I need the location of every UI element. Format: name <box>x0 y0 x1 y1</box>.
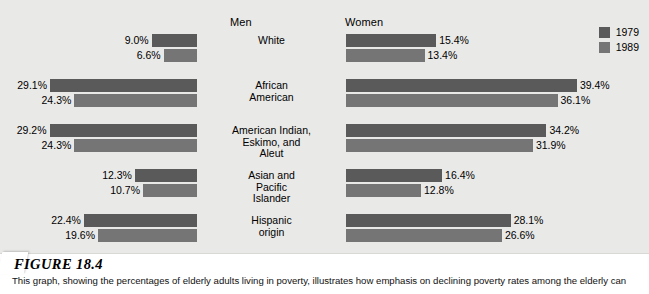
bar-value-label-women-1989: 31.9% <box>536 139 566 152</box>
men-bars-group: 29.2%24.3% <box>0 120 197 165</box>
bar-value-label-men-1979: 29.2% <box>17 124 47 137</box>
bar-value-label-men-1979: 12.3% <box>102 169 132 182</box>
category-label: AfricanAmerican <box>197 75 346 103</box>
bar-women-1989 <box>346 139 533 152</box>
bar-line: 24.3% <box>42 94 197 107</box>
bar-value-label-men-1989: 24.3% <box>42 139 72 152</box>
bar-line: 39.4% <box>346 79 610 92</box>
bar-women-1989 <box>346 184 421 197</box>
category-label-line: origin <box>197 227 346 239</box>
bar-line: 28.1% <box>346 214 543 227</box>
bar-line: 13.4% <box>346 49 457 62</box>
bar-women-1979 <box>346 124 546 137</box>
bar-line: 16.4% <box>346 169 475 182</box>
bar-women-1989 <box>346 94 558 107</box>
bar-line: 22.4% <box>51 214 197 227</box>
chart-row: 12.3%10.7%Asian andPacificIslander16.4%1… <box>0 165 649 210</box>
bar-men-1989 <box>74 94 197 107</box>
figure-caption-block: FIGURE 18.4 This graph, showing the perc… <box>0 253 649 294</box>
bar-value-label-men-1989: 6.6% <box>137 49 161 62</box>
bar-men-1989 <box>74 139 197 152</box>
category-label-line: Aleut <box>197 148 346 160</box>
bar-women-1979 <box>346 34 436 47</box>
category-label-line: African <box>197 80 346 92</box>
women-bars-group: 28.1%26.6% <box>346 210 649 255</box>
bar-women-1979 <box>346 79 577 92</box>
bar-value-label-men-1979: 9.0% <box>125 34 149 47</box>
bar-men-1989 <box>98 229 197 242</box>
category-label-line: American <box>197 92 346 104</box>
bar-men-1979 <box>84 214 197 227</box>
category-label-line: Hispanic <box>197 215 346 227</box>
bar-line: 12.8% <box>346 184 454 197</box>
bar-line: 29.1% <box>17 79 197 92</box>
bar-line: 10.7% <box>110 184 197 197</box>
bar-value-label-women-1989: 36.1% <box>561 94 591 107</box>
category-label: American Indian,Eskimo, andAleut <box>197 120 346 160</box>
chart-rows: 9.0%6.6%White15.4%13.4%29.1%24.3%African… <box>0 30 649 255</box>
bar-men-1989 <box>143 184 197 197</box>
bar-men-1989 <box>164 49 197 62</box>
bar-women-1979 <box>346 214 511 227</box>
chart-row: 29.1%24.3%AfricanAmerican39.4%36.1% <box>0 75 649 120</box>
bar-value-label-men-1979: 29.1% <box>17 79 47 92</box>
chart-row: 22.4%19.6%Hispanicorigin28.1%26.6% <box>0 210 649 255</box>
bar-line: 26.6% <box>346 229 535 242</box>
column-header-women: Women <box>345 16 383 28</box>
bar-line: 9.0% <box>125 34 197 47</box>
bar-men-1979 <box>135 169 197 182</box>
category-label: Hispanicorigin <box>197 210 346 238</box>
bar-line: 31.9% <box>346 139 566 152</box>
bar-value-label-women-1979: 16.4% <box>445 169 475 182</box>
figure-container: Men Women 1979 1989 9.0%6.6%White15.4%13… <box>0 0 649 294</box>
bar-line: 29.2% <box>17 124 197 137</box>
category-label-line: White <box>197 35 346 47</box>
bar-line: 15.4% <box>346 34 469 47</box>
bar-men-1979 <box>50 79 197 92</box>
column-header-men: Men <box>230 16 252 28</box>
bar-line: 36.1% <box>346 94 590 107</box>
bar-value-label-women-1979: 28.1% <box>514 214 544 227</box>
bar-value-label-men-1989: 10.7% <box>110 184 140 197</box>
bar-line: 34.2% <box>346 124 579 137</box>
bar-line: 24.3% <box>42 139 197 152</box>
bar-women-1989 <box>346 229 502 242</box>
bar-value-label-women-1979: 34.2% <box>549 124 579 137</box>
bar-value-label-men-1989: 24.3% <box>42 94 72 107</box>
women-bars-group: 39.4%36.1% <box>346 75 649 120</box>
bar-women-1979 <box>346 169 442 182</box>
men-bars-group: 29.1%24.3% <box>0 75 197 120</box>
figure-number: FIGURE 18.4 <box>14 256 103 273</box>
bar-line: 6.6% <box>137 49 197 62</box>
bar-line: 12.3% <box>102 169 197 182</box>
bar-line: 19.6% <box>65 229 197 242</box>
figure-caption-text: This graph, showing the percentages of e… <box>12 275 642 287</box>
bar-value-label-women-1989: 26.6% <box>505 229 535 242</box>
category-label: White <box>197 30 346 47</box>
men-bars-group: 22.4%19.6% <box>0 210 197 255</box>
women-bars-group: 34.2%31.9% <box>346 120 649 165</box>
category-label-line: Asian and <box>197 170 346 182</box>
bar-value-label-men-1979: 22.4% <box>51 214 81 227</box>
bar-value-label-women-1979: 39.4% <box>580 79 610 92</box>
bar-value-label-women-1989: 13.4% <box>428 49 458 62</box>
category-label-line: American Indian, <box>197 125 346 137</box>
bar-value-label-women-1989: 12.8% <box>424 184 454 197</box>
bar-women-1989 <box>346 49 425 62</box>
women-bars-group: 16.4%12.8% <box>346 165 649 210</box>
chart-row: 9.0%6.6%White15.4%13.4% <box>0 30 649 75</box>
chart-row: 29.2%24.3%American Indian,Eskimo, andAle… <box>0 120 649 165</box>
bar-value-label-men-1989: 19.6% <box>65 229 95 242</box>
chart-plot-area: Men Women 1979 1989 9.0%6.6%White15.4%13… <box>0 0 649 256</box>
men-bars-group: 12.3%10.7% <box>0 165 197 210</box>
category-label: Asian andPacificIslander <box>197 165 346 205</box>
women-bars-group: 15.4%13.4% <box>346 30 649 75</box>
men-bars-group: 9.0%6.6% <box>0 30 197 75</box>
category-label-line: Islander <box>197 193 346 205</box>
bar-men-1979 <box>152 34 197 47</box>
bar-men-1979 <box>50 124 198 137</box>
bar-value-label-women-1979: 15.4% <box>439 34 469 47</box>
